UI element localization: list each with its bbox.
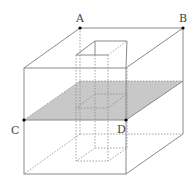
point-a	[78, 26, 81, 29]
label-d: D	[117, 123, 126, 136]
label-c: C	[11, 124, 19, 137]
point-b	[181, 26, 184, 29]
label-a: A	[75, 12, 85, 25]
cube-diagram: A B C D	[0, 0, 194, 185]
point-c	[22, 118, 25, 121]
cross-section-plane	[24, 81, 183, 120]
label-b: B	[179, 12, 187, 25]
point-d	[124, 118, 127, 121]
